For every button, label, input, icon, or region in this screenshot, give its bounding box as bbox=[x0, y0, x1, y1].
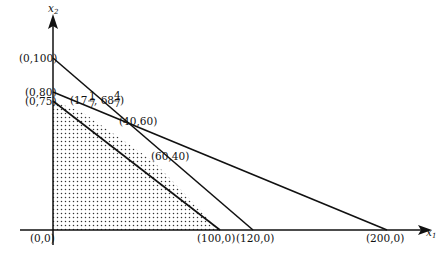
label-100-0: (100,0) bbox=[197, 232, 235, 244]
label-0-100: (0,100) bbox=[19, 52, 57, 64]
y-axis-label: x2 bbox=[48, 2, 59, 16]
x-axis-label: x1 bbox=[426, 226, 436, 240]
label-60-40: (60,40) bbox=[151, 150, 189, 162]
label-40-60: (40,60) bbox=[119, 115, 157, 127]
label-200-0: (200,0) bbox=[366, 232, 404, 244]
lp-diagram: x2 x1 (0,0) (0,100) (0,80) (0,75) (17 1 … bbox=[0, 0, 441, 258]
label-0-75: (0,75) bbox=[25, 95, 57, 107]
label-120-0: (120,0) bbox=[236, 232, 274, 244]
svg-text:, 68: , 68 bbox=[94, 94, 114, 106]
svg-text:(17: (17 bbox=[70, 94, 87, 106]
label-intersection-1: (17 1 7 , 68 4 7 ) bbox=[70, 89, 124, 109]
label-origin: (0,0) bbox=[30, 232, 55, 244]
svg-text:): ) bbox=[120, 94, 124, 106]
